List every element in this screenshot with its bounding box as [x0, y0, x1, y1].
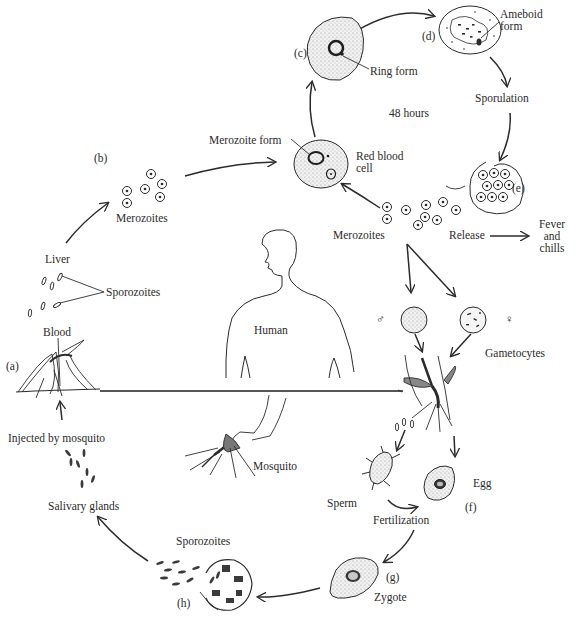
- label-salivary-glands: Salivary glands: [48, 500, 119, 513]
- stage-label-e: (e): [512, 182, 525, 195]
- label-injected-by-mosquito: Injected by mosquito: [8, 432, 105, 445]
- label-sporozoites-blood: Sporozoites: [106, 286, 160, 299]
- label-ring-form: Ring form: [370, 65, 418, 78]
- oocyst-h: [156, 560, 252, 611]
- sperm-and-drops: [362, 418, 414, 490]
- zygote-cell: [330, 558, 378, 599]
- label-merozoite-form: Merozoite form: [209, 134, 282, 147]
- stage-label-f: (f): [465, 501, 477, 514]
- blood-sporozoites: [28, 273, 104, 317]
- malaria-life-cycle-diagram: (b) Merozoite form Merozoites (c) Ring f…: [0, 0, 577, 624]
- label-ameboid-form: form: [500, 20, 522, 33]
- stage-label-h: (h): [177, 597, 190, 610]
- label-zygote: Zygote: [374, 591, 407, 604]
- label-blood: Blood: [43, 326, 71, 339]
- ring-form-cell: [307, 17, 369, 80]
- stage-label-g: (g): [386, 571, 399, 584]
- female-symbol: ♀: [505, 313, 514, 326]
- human-silhouette: [226, 230, 354, 378]
- released-merozoites: [383, 198, 461, 230]
- male-symbol: ♂: [376, 313, 385, 326]
- liver-merozoites: [123, 170, 167, 208]
- label-sperm: Sperm: [327, 497, 357, 510]
- label-liver: Liver: [45, 253, 70, 266]
- label-cell: cell: [356, 162, 373, 175]
- label-fertilization: Fertilization: [373, 514, 429, 527]
- label-merozoites-liver: Merozoites: [116, 212, 168, 225]
- label-merozoites-released: Merozoites: [333, 229, 385, 242]
- ameboid-form-cell: [439, 6, 501, 54]
- label-human: Human: [254, 324, 288, 337]
- label-release: Release: [449, 229, 485, 242]
- stage-label-b: (b): [94, 152, 107, 165]
- label-egg: Egg: [473, 477, 492, 490]
- label-gametocytes: Gametocytes: [485, 347, 545, 360]
- stage-label-a: (a): [6, 360, 19, 373]
- egg-cell: [424, 466, 455, 500]
- stage-label-c: (c): [294, 47, 307, 60]
- label-chills: chills: [534, 242, 570, 255]
- stage-label-d: (d): [422, 30, 435, 43]
- label-48-hours: 48 hours: [389, 107, 429, 120]
- mosquito-right-drawing: [398, 355, 456, 432]
- cycle-arrows: [60, 13, 528, 597]
- label-mosquito: Mosquito: [253, 460, 297, 473]
- label-sporozoites-oocyst: Sporozoites: [176, 535, 230, 548]
- red-blood-cell: [291, 139, 348, 188]
- salivary-sporozoites: [64, 449, 95, 488]
- gametocytes: [401, 307, 486, 333]
- label-sporulation: Sporulation: [475, 92, 529, 105]
